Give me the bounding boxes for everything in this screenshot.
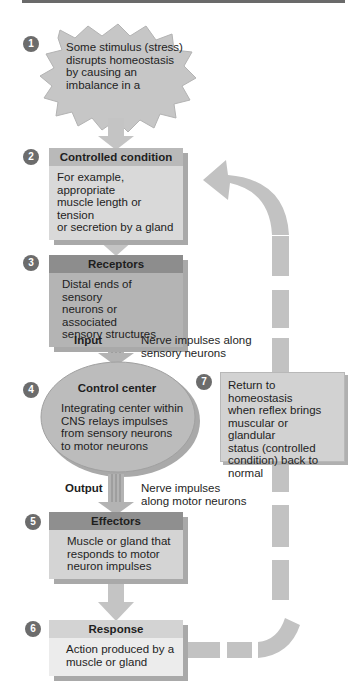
body-line: muscle or gland [66, 656, 175, 669]
stimulus-line: imbalance in a [66, 79, 186, 92]
control-center-title: Control center [50, 382, 184, 395]
body-line: Return to homeostasis [228, 379, 338, 404]
controlled-condition-box: Controlled condition For example, approp… [49, 148, 183, 240]
receptors-title: Receptors [49, 255, 183, 273]
body-line: when reflex brings [228, 404, 338, 417]
body-line: or secretion by a gland [57, 221, 175, 234]
stimulus-line: by causing an [66, 66, 186, 79]
response-box: Response Action produced by a muscle or … [49, 620, 183, 676]
stimulus-line: Some stimulus (stress) [66, 41, 186, 54]
body-line: Integrating center within [61, 402, 191, 415]
body-line: muscular or glandular [228, 417, 338, 442]
body-line: to motor neurons [61, 440, 191, 453]
response-body: Action produced by a muscle or gland [49, 638, 183, 676]
body-line: Distal ends of sensory [62, 278, 175, 303]
return-body: Return to homeostasis when reflex brings… [221, 373, 344, 479]
body-line: muscle length or tension [57, 196, 175, 221]
body-line: neuron impulses [67, 560, 175, 573]
output-desc-line: along motor neurons [141, 495, 271, 508]
arrow-5-to-6 [98, 580, 134, 621]
step-1-badge: 1 [23, 36, 39, 52]
step-3-badge: 3 [23, 255, 39, 271]
step-5-badge: 5 [25, 514, 41, 530]
controlled-condition-title: Controlled condition [49, 148, 183, 166]
step-4-badge: 4 [23, 382, 39, 398]
input-desc-line: Nerve impulses along [141, 334, 271, 347]
response-title: Response [49, 620, 183, 638]
effectors-body: Muscle or gland that responds to motor n… [49, 530, 183, 579]
body-line: normal [228, 467, 338, 480]
body-line: Action produced by a [66, 643, 175, 656]
body-line: neurons or associated [62, 303, 175, 328]
body-line: Muscle or gland that [67, 535, 175, 548]
control-center-body: Integrating center within CNS relays imp… [61, 402, 191, 452]
body-line: status (controlled [228, 442, 338, 455]
effectors-title: Effectors [49, 512, 183, 530]
step-7-badge: 7 [196, 374, 212, 390]
output-desc-line: Nerve impulses [141, 482, 271, 495]
output-description: Nerve impulses along motor neurons [141, 482, 271, 507]
input-description: Nerve impulses along sensory neurons [141, 334, 271, 359]
step-2-badge: 2 [23, 149, 39, 165]
body-line: responds to motor [67, 548, 175, 561]
body-line: condition) back to [228, 454, 338, 467]
body-line: from sensory neurons [61, 427, 191, 440]
return-to-homeostasis-box: Return to homeostasis when reflex brings… [220, 372, 345, 462]
input-desc-line: sensory neurons [141, 347, 271, 360]
output-arrow [98, 474, 134, 515]
input-label: Input [74, 334, 102, 347]
effectors-box: Effectors Muscle or gland that responds … [49, 512, 183, 579]
body-line: For example, appropriate [57, 171, 175, 196]
stimulus-text: Some stimulus (stress) disrupts homeosta… [66, 41, 186, 91]
step-6-badge: 6 [25, 621, 41, 637]
controlled-condition-body: For example, appropriate muscle length o… [49, 166, 183, 240]
body-line: CNS relays impulses [61, 415, 191, 428]
output-label: Output [65, 482, 103, 495]
receptors-box: Receptors Distal ends of sensory neurons… [49, 255, 183, 347]
stimulus-line: disrupts homeostasis [66, 54, 186, 67]
